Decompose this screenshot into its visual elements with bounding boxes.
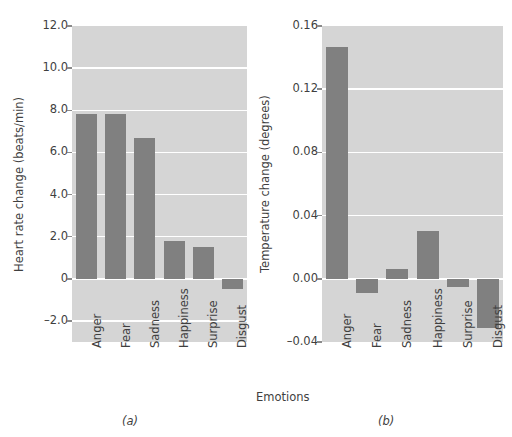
y-tick-mark xyxy=(67,25,72,27)
x-tick-label-disgust: Disgust xyxy=(237,305,249,348)
gridline xyxy=(72,236,247,238)
y-tick-label: 0.04 xyxy=(292,210,318,222)
bar-fear xyxy=(105,114,126,278)
y-tick-mark xyxy=(67,236,72,238)
x-tick-label-sadness: Sadness xyxy=(150,300,162,348)
x-tick-label-surprise: Surprise xyxy=(463,300,475,348)
bar-surprise xyxy=(447,279,469,287)
x-tick-label-happiness: Happiness xyxy=(179,288,191,348)
y-tick-label: 6.0 xyxy=(50,146,68,158)
y-axis-ticks-a: 12.010.08.06.04.02.00–2.0 xyxy=(18,0,68,437)
bar-sadness xyxy=(386,269,408,279)
panel-b: Temperature change (degrees) 0.160.120.0… xyxy=(256,0,512,437)
y-tick-label: 0.16 xyxy=(292,20,318,32)
panel-letter-a: (a) xyxy=(122,414,138,428)
x-axis-title: Emotions xyxy=(256,390,310,404)
x-tick-label-fear: Fear xyxy=(121,323,133,348)
y-tick-label: 2.0 xyxy=(50,231,68,243)
y-tick-label: 0.12 xyxy=(292,83,318,95)
bar-disgust xyxy=(222,279,243,290)
gridline xyxy=(322,152,503,154)
y-tick-mark xyxy=(67,278,72,280)
gridline xyxy=(72,152,247,154)
bar-fear xyxy=(356,279,378,293)
panel-letter-b: (b) xyxy=(378,414,394,428)
y-tick-mark xyxy=(317,152,322,154)
y-axis-ticks-b: 0.160.120.080.040.00–0.04 xyxy=(262,0,318,437)
x-tick-label-anger: Anger xyxy=(92,314,104,348)
x-tick-label-anger: Anger xyxy=(342,314,354,348)
y-tick-label: –2.0 xyxy=(44,315,68,327)
x-tick-label-happiness: Happiness xyxy=(433,288,445,348)
bar-anger xyxy=(326,47,348,279)
zero-gridline xyxy=(72,278,247,280)
x-tick-label-fear: Fear xyxy=(372,323,384,348)
plot-area-b xyxy=(322,26,503,342)
y-tick-mark xyxy=(67,194,72,196)
panel-a: Heart rate change (beats/min) 12.010.08.… xyxy=(0,0,256,437)
x-tick-label-sadness: Sadness xyxy=(402,300,414,348)
zero-gridline xyxy=(322,278,503,280)
gridline xyxy=(72,194,247,196)
y-tick-mark xyxy=(317,341,322,343)
y-tick-mark xyxy=(67,67,72,69)
y-tick-mark xyxy=(317,215,322,217)
y-tick-mark xyxy=(67,110,72,112)
y-tick-label: 4.0 xyxy=(50,189,68,201)
plot-area-a xyxy=(72,26,247,342)
y-tick-mark xyxy=(317,88,322,90)
y-tick-label: 10.0 xyxy=(42,62,68,74)
bar-happiness xyxy=(417,231,439,278)
y-tick-mark xyxy=(317,25,322,27)
y-tick-label: 8.0 xyxy=(50,104,68,116)
y-tick-label: 12.0 xyxy=(42,20,68,32)
gridline xyxy=(72,110,247,112)
bar-sadness xyxy=(134,138,155,279)
y-tick-label: –0.04 xyxy=(287,336,318,348)
bar-anger xyxy=(76,114,97,278)
bar-surprise xyxy=(193,247,214,279)
x-tick-label-disgust: Disgust xyxy=(493,305,505,348)
y-tick-label: 0.00 xyxy=(292,273,318,285)
y-tick-mark xyxy=(317,278,322,280)
x-tick-label-surprise: Surprise xyxy=(208,300,220,348)
y-tick-mark xyxy=(67,152,72,154)
gridline xyxy=(322,215,503,217)
y-tick-mark xyxy=(67,320,72,322)
bar-happiness xyxy=(164,241,185,279)
gridline xyxy=(72,67,247,69)
figure-emotions-physiology: Heart rate change (beats/min) 12.010.08.… xyxy=(0,0,512,437)
gridline xyxy=(322,88,503,90)
y-tick-label: 0.08 xyxy=(292,146,318,158)
